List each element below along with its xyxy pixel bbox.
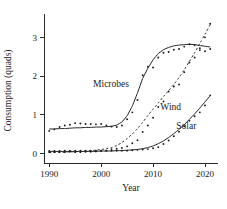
data-point — [199, 47, 201, 49]
series-annotations: MicrobesWindSolar — [93, 79, 197, 132]
data-point — [111, 126, 113, 128]
x-axis-ticks: 1990200020102020 — [40, 163, 214, 179]
y-tick-label: 0 — [33, 149, 38, 159]
data-point — [142, 74, 144, 76]
data-point — [204, 50, 206, 52]
data-point — [79, 123, 81, 125]
y-axis-ticks: 0123 — [33, 33, 45, 159]
chart-canvas: 1990200020102020 0123 MicrobesWindSolar … — [0, 0, 227, 209]
data-point — [64, 125, 66, 127]
data-point — [204, 104, 206, 106]
axes-group — [44, 14, 218, 163]
data-point — [137, 99, 139, 101]
data-point — [131, 111, 133, 113]
fit-curve-microbes — [49, 44, 210, 129]
data-point — [90, 123, 92, 125]
x-tick-label: 2010 — [144, 169, 163, 179]
data-point — [188, 62, 190, 64]
data-point — [85, 123, 87, 125]
series-layer — [48, 23, 211, 153]
data-point — [100, 150, 102, 152]
data-point — [100, 123, 102, 125]
data-point — [131, 142, 133, 144]
data-point — [59, 126, 61, 128]
data-point — [79, 150, 81, 152]
series-microbes — [48, 43, 211, 132]
data-point — [69, 150, 71, 152]
fit-curve-wind — [49, 25, 210, 153]
data-point — [152, 147, 154, 149]
data-point — [178, 48, 180, 50]
data-point — [126, 118, 128, 120]
data-point — [157, 56, 159, 58]
data-point — [142, 131, 144, 133]
data-point — [90, 150, 92, 152]
data-point — [152, 67, 154, 69]
data-point — [53, 150, 55, 152]
data-point — [163, 143, 165, 145]
data-point — [152, 117, 154, 119]
x-tick-label: 2000 — [92, 169, 111, 179]
data-point — [111, 150, 113, 152]
data-point — [105, 125, 107, 127]
data-point — [147, 148, 149, 150]
data-point — [85, 150, 87, 152]
data-point — [116, 150, 118, 152]
consumption-by-source-chart: 1990200020102020 0123 MicrobesWindSolar … — [0, 0, 227, 209]
data-point — [74, 150, 76, 152]
data-point — [126, 150, 128, 152]
series-label-solar: Solar — [176, 121, 197, 131]
data-point — [173, 135, 175, 137]
data-point — [116, 126, 118, 128]
data-point — [199, 49, 201, 51]
y-axis-title: Consumption (quads) — [3, 49, 14, 131]
series-label-wind: Wind — [160, 102, 181, 112]
data-point — [168, 140, 170, 142]
data-point — [64, 150, 66, 152]
data-point — [209, 94, 211, 96]
data-point — [194, 115, 196, 117]
data-point — [116, 148, 118, 150]
y-tick-label: 1 — [33, 110, 38, 120]
data-point — [168, 91, 170, 93]
data-point — [168, 51, 170, 53]
data-point — [142, 149, 144, 151]
data-point — [173, 85, 175, 87]
data-point — [121, 125, 123, 127]
data-point — [95, 123, 97, 125]
data-point — [157, 106, 159, 108]
x-tick-label: 1990 — [40, 169, 59, 179]
data-point — [59, 150, 61, 152]
data-point — [194, 56, 196, 58]
data-point — [188, 43, 190, 45]
data-point — [209, 23, 211, 25]
data-point — [137, 139, 139, 141]
data-point — [147, 66, 149, 68]
data-point — [204, 36, 206, 38]
data-point — [163, 52, 165, 54]
y-tick-label: 3 — [33, 33, 38, 43]
data-point — [199, 111, 201, 113]
x-axis-title: Year — [122, 183, 140, 193]
data-point — [157, 146, 159, 148]
data-point — [183, 46, 185, 48]
data-point — [183, 71, 185, 73]
data-point — [137, 149, 139, 151]
data-point — [209, 48, 211, 50]
data-point — [173, 49, 175, 51]
data-point — [48, 150, 50, 152]
series-wind — [48, 23, 211, 153]
series-label-microbes: Microbes — [93, 79, 129, 89]
y-tick-label: 2 — [33, 71, 38, 81]
data-point — [194, 44, 196, 46]
data-point — [121, 150, 123, 152]
data-point — [95, 150, 97, 152]
data-point — [147, 125, 149, 127]
data-point — [69, 124, 71, 126]
data-point — [105, 150, 107, 152]
data-point — [74, 122, 76, 124]
data-point — [126, 145, 128, 147]
data-point — [48, 130, 50, 132]
data-point — [178, 84, 180, 86]
data-point — [131, 149, 133, 151]
